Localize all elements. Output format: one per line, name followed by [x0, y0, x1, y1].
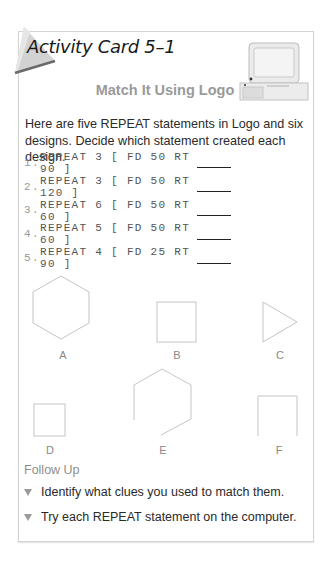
triangle-bullet-icon [24, 489, 32, 496]
design-f-open-square [258, 396, 297, 436]
design-label-a: A [53, 349, 73, 361]
design-label-b: B [167, 349, 187, 361]
design-b-square [157, 302, 196, 342]
design-e-open-hexagon [134, 369, 191, 435]
follow-up-text: Try each REPEAT statement on the compute… [41, 510, 296, 524]
design-c-triangle [263, 302, 297, 342]
triangle-bullet-icon [24, 514, 32, 521]
design-a-hexagon [33, 276, 89, 339]
design-label-e: E [153, 444, 173, 456]
design-label-f: F [269, 444, 289, 456]
follow-up-title: Follow Up [24, 463, 80, 477]
design-label-d: D [40, 444, 60, 456]
follow-up-item: Identify what clues you used to match th… [24, 485, 284, 499]
follow-up-item: Try each REPEAT statement on the compute… [24, 510, 296, 524]
follow-up-text: Identify what clues you used to match th… [41, 485, 284, 499]
design-d-small-square [34, 404, 65, 436]
design-label-c: C [270, 349, 290, 361]
